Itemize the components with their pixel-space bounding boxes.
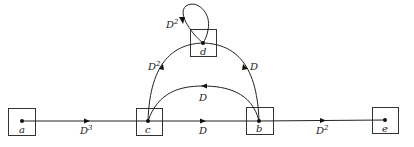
node-dot-a bbox=[20, 119, 24, 123]
node-label-c: c bbox=[145, 124, 151, 135]
edge-label-b-c: D bbox=[198, 92, 207, 103]
arrow-icon bbox=[201, 84, 207, 89]
edge-d-d-loop bbox=[183, 4, 209, 43]
arrow-icon bbox=[200, 119, 206, 124]
edge-d-b bbox=[203, 43, 259, 121]
edge-c-d bbox=[148, 43, 203, 121]
node-label-a: a bbox=[19, 124, 25, 135]
arrow-icon bbox=[320, 118, 326, 123]
node-dot-d bbox=[201, 41, 205, 45]
arrow-icon bbox=[84, 119, 90, 124]
edge-label-c-b: D bbox=[198, 125, 207, 136]
node-label-d: d bbox=[200, 46, 206, 57]
state-diagram: a c b e d D3 D D2 D D2 D D2 bbox=[0, 0, 414, 147]
node-label-e: e bbox=[382, 123, 388, 134]
edge-label-d-b: D bbox=[249, 61, 258, 72]
node-dot-c bbox=[146, 119, 150, 123]
node-dot-e bbox=[383, 118, 387, 122]
edge-label-b-e: D2 bbox=[315, 124, 329, 136]
arrow-icon bbox=[179, 17, 185, 24]
node-label-b: b bbox=[256, 123, 262, 134]
edge-label-a-c: D3 bbox=[79, 124, 93, 136]
edge-label-d-d: D2 bbox=[165, 18, 179, 30]
